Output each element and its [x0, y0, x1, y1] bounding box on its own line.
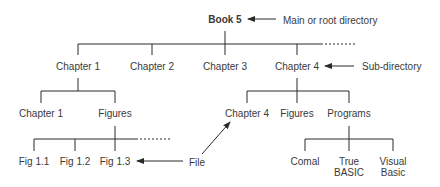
node-chapter4-file: Chapter 4	[225, 108, 269, 119]
node-programs: Programs	[327, 108, 370, 119]
root-node-book5: Book 5	[208, 14, 241, 25]
node-chapter1-figures: Figures	[98, 108, 131, 119]
node-true-basic-line2: BASIC	[334, 167, 364, 178]
node-fig-1-2: Fig 1.2	[60, 156, 91, 167]
node-comal: Comal	[291, 156, 320, 167]
file-annotation: File	[189, 157, 205, 168]
node-chapter3: Chapter 3	[203, 61, 247, 72]
node-fig-1-3: Fig 1.3	[100, 156, 131, 167]
node-chapter4: Chapter 4	[275, 61, 319, 72]
root-annotation: Main or root directory	[283, 15, 377, 26]
node-chapter1: Chapter 1	[56, 61, 100, 72]
node-chapter2: Chapter 2	[130, 61, 174, 72]
node-chapter1-file: Chapter 1	[19, 108, 63, 119]
node-chapter4-figures: Figures	[280, 108, 313, 119]
node-true-basic-line1: True	[339, 156, 359, 167]
node-fig-1-1: Fig 1.1	[19, 156, 50, 167]
node-visual-basic-line2: Basic	[381, 167, 405, 178]
node-visual-basic-line1: Visual	[379, 156, 406, 167]
subdirectory-annotation: Sub-directory	[362, 61, 421, 72]
